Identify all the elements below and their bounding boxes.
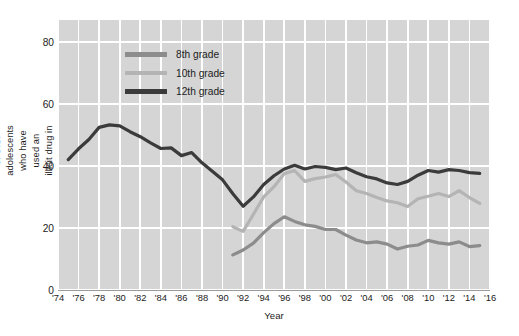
- x-axis-tick-label: '82: [134, 292, 146, 303]
- legend-swatch-icon: [125, 52, 167, 56]
- x-axis-tick-label: '98: [299, 292, 311, 303]
- x-axis-tick-label: '90: [216, 292, 228, 303]
- x-axis-tick-label: '96: [278, 292, 290, 303]
- x-axis-tick-label: '94: [258, 292, 270, 303]
- x-axis-tick-label: '06: [381, 292, 393, 303]
- x-axis-tick-label: '12: [443, 292, 455, 303]
- y-axis-tick-label: 60: [14, 98, 54, 109]
- x-axis-tick-label: '10: [422, 292, 434, 303]
- legend-item[interactable]: 8th grade: [125, 48, 225, 61]
- x-axis-tick-label: '00: [319, 292, 331, 303]
- x-axis-tick-label: '04: [360, 292, 372, 303]
- x-axis-ticks: '74'76'78'80'82'84'86'88'90'92'94'96'98'…: [58, 292, 490, 308]
- legend-swatch-icon: [125, 71, 167, 75]
- x-axis-tick-label: '02: [340, 292, 352, 303]
- plot-area: [58, 20, 490, 290]
- x-axis-tick-label: '92: [237, 292, 249, 303]
- x-axis-tick-label: '86: [175, 292, 187, 303]
- series-lines: [58, 20, 490, 290]
- chart-figure: Trends in the percent of U.S. adolescent…: [0, 0, 519, 336]
- series-line: [233, 217, 480, 255]
- x-axis-tick-label: '76: [72, 292, 84, 303]
- x-axis-tick-label: '78: [93, 292, 105, 303]
- x-axis-tick-label: '74: [52, 292, 64, 303]
- y-axis-tick-label: 20: [14, 222, 54, 233]
- series-line: [68, 125, 479, 206]
- x-axis-tick-label: '16: [484, 292, 496, 303]
- x-axis-tick-label: '14: [463, 292, 475, 303]
- chart-legend: 8th grade10th grade12th grade: [125, 48, 225, 98]
- y-axis-ticks: 020406080: [8, 20, 54, 290]
- legend-label: 10th grade: [176, 68, 225, 79]
- x-axis-tick-label: '88: [196, 292, 208, 303]
- y-axis-tick-label: 80: [14, 36, 54, 47]
- legend-swatch-icon: [125, 89, 167, 93]
- legend-label: 8th grade: [176, 49, 219, 60]
- legend-item[interactable]: 12th grade: [125, 85, 225, 98]
- x-axis-tick-label: '08: [402, 292, 414, 303]
- x-axis-tick-label: '80: [114, 292, 126, 303]
- x-axis-label: Year: [58, 310, 490, 321]
- y-axis-tick-label: 40: [14, 160, 54, 171]
- x-axis-tick-label: '84: [155, 292, 167, 303]
- y-axis-tick-label: 0: [14, 285, 54, 296]
- legend-label: 12th grade: [176, 86, 225, 97]
- legend-item[interactable]: 10th grade: [125, 67, 225, 80]
